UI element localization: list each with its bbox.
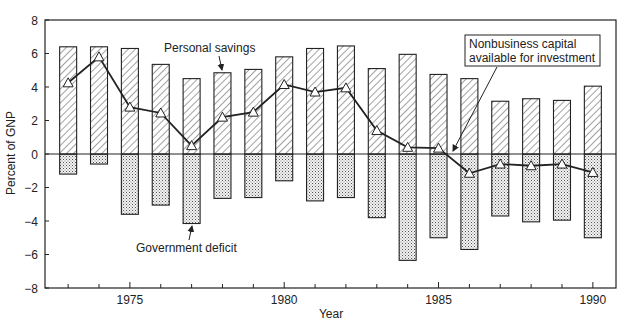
personal-savings-bar-1985	[430, 74, 447, 154]
personal-savings-bar-1987	[492, 101, 509, 154]
personal-savings-bar-1988	[523, 99, 540, 154]
annotation-personal-savings: Personal savings	[164, 41, 255, 55]
personal-savings-bar-1973	[60, 47, 77, 154]
annotation-nonbusiness-line-1: Nonbusiness capital	[469, 37, 576, 51]
y-tick-label: 2	[31, 114, 38, 128]
x-tick-label: 1980	[271, 293, 298, 307]
x-axis-title: Year	[319, 307, 343, 321]
government-deficit-bar-1977	[183, 154, 200, 224]
annotation-government-deficit-arrow	[189, 226, 192, 240]
y-tick-label: −8	[24, 282, 38, 296]
y-tick-label: 4	[31, 81, 38, 95]
personal-savings-bar-1980	[276, 57, 293, 154]
personal-savings-bar-1986	[461, 79, 478, 154]
x-tick-label: 1985	[425, 293, 452, 307]
x-axis: 1975198019851990	[68, 282, 606, 307]
government-deficit-bar-1984	[399, 154, 416, 260]
y-tick-label: 0	[31, 148, 38, 162]
y-tick-label: 6	[31, 47, 38, 61]
y-tick-label: −2	[24, 181, 38, 195]
annotation-government-deficit: Government deficit	[136, 241, 237, 255]
government-deficit-bar-1981	[307, 154, 324, 201]
government-deficit-bar-1973	[60, 154, 77, 174]
y-tick-label: −4	[24, 215, 38, 229]
government-deficit-bar-1985	[430, 154, 447, 238]
nonbusiness-capital-polyline	[68, 57, 593, 173]
personal-savings-bar-1981	[307, 48, 324, 154]
y-tick-label: −6	[24, 248, 38, 262]
chart: 86420−2−4−6−8 1975198019851990 Percent o…	[0, 0, 630, 335]
government-deficit-bar-1978	[214, 154, 231, 198]
government-deficit-bar-1983	[368, 154, 385, 218]
annotation-personal-savings-arrow	[219, 56, 222, 70]
government-deficit-bar-1980	[276, 154, 293, 181]
personal-savings-bar-1984	[399, 54, 416, 154]
x-tick-label: 1975	[117, 293, 144, 307]
personal-savings-bar-1990	[584, 86, 601, 154]
government-deficit-bar-1974	[91, 154, 108, 164]
government-deficit-bar-1976	[152, 154, 169, 205]
government-deficit-bar-1975	[121, 154, 138, 214]
government-deficit-bar-1982	[337, 154, 354, 198]
y-tick-label: 8	[31, 14, 38, 28]
x-tick-label: 1990	[579, 293, 606, 307]
nonbusiness-capital-line	[63, 52, 598, 177]
personal-savings-bar-1982	[337, 46, 354, 154]
annotation-nonbusiness-line-2: available for investment	[469, 51, 596, 65]
y-axis-title: Percent of GNP	[4, 111, 18, 195]
government-deficit-bar-1979	[245, 154, 262, 198]
personal-savings-bar-1989	[553, 100, 570, 154]
personal-savings-bar-1983	[368, 69, 385, 154]
